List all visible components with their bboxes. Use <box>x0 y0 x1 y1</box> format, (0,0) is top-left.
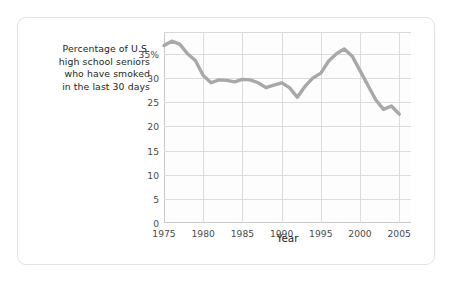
plot-region: 05101520253035% 197519801985199019952000… <box>164 32 411 223</box>
chart-card: Percentage of U.S. high school seniors w… <box>17 17 435 265</box>
line-series-svg <box>164 32 411 223</box>
y-tick-label: 20 <box>119 121 159 132</box>
y-tick-label: 25 <box>119 97 159 108</box>
data-line-smoking-percentage <box>164 41 399 114</box>
y-tick-label: 35% <box>119 48 159 59</box>
y-tick-label: 10 <box>119 169 159 180</box>
y-tick-label: 0 <box>119 218 159 229</box>
y-tick-label: 5 <box>119 193 159 204</box>
y-tick-label: 30 <box>119 72 159 83</box>
x-axis-title: Year <box>164 232 411 244</box>
y-tick-label: 15 <box>119 145 159 156</box>
